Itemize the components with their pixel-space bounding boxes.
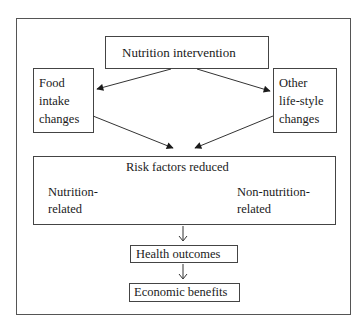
arrow-lifestyle-to-risk — [195, 116, 273, 148]
arrow-health-to-economic — [179, 264, 187, 279]
arrow-food-to-risk — [93, 116, 173, 148]
arrow-intervention-to-food — [97, 69, 171, 89]
arrows-layer — [0, 0, 363, 333]
arrow-risk-to-health — [179, 226, 187, 241]
arrow-intervention-to-lifestyle — [197, 69, 270, 91]
